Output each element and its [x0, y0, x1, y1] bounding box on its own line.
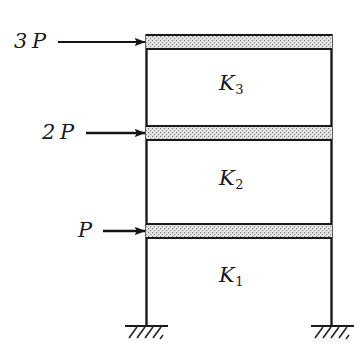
supports-group: [125, 326, 354, 339]
load-label-top: 3P: [14, 31, 47, 52]
stiffness-label-story-1: K1: [219, 265, 243, 288]
load-bottom-symbol: P: [78, 218, 93, 242]
shear-frame-diagram: 3P 2P P K3 K2 K1: [0, 0, 364, 363]
load-top-symbol: P: [32, 29, 47, 53]
load-label-bottom: P: [78, 220, 93, 241]
stiffness-symbol-2: K: [219, 166, 235, 190]
beam-roof: [146, 34, 332, 50]
stiffness-symbol-1: K: [219, 263, 235, 287]
load-middle-symbol: P: [60, 120, 75, 144]
frame-drawing-canvas: [0, 0, 364, 363]
load-label-middle: 2P: [42, 122, 75, 143]
beam-level1: [146, 223, 332, 239]
beams-group: [146, 34, 332, 239]
load-top-coefficient: 3: [14, 29, 28, 53]
stiffness-subscript-3: 3: [235, 82, 243, 97]
support-left: [125, 326, 168, 339]
support-right: [311, 326, 354, 339]
stiffness-label-story-2: K2: [219, 168, 243, 191]
beam-level2: [146, 125, 332, 141]
stiffness-subscript-1: 1: [235, 274, 243, 289]
load-middle-coefficient: 2: [42, 120, 56, 144]
stiffness-label-story-3: K3: [219, 73, 243, 96]
stiffness-subscript-2: 2: [235, 177, 243, 192]
stiffness-symbol-3: K: [219, 71, 235, 95]
